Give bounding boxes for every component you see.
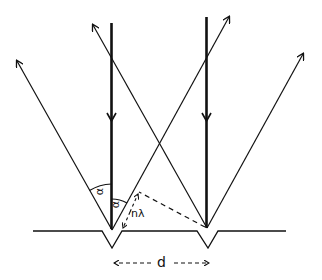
alpha-outer-label: α [94,188,105,195]
spacing-label: d [157,255,166,269]
grating-surface [33,231,286,248]
diffracted-ray-left-right [112,17,229,230]
diffracted-ray-left-outer [17,61,112,230]
diffracted-ray-right-outer [207,54,303,228]
alpha-inner-label: α [110,201,121,208]
wavefront-dashed [139,192,205,227]
path-difference-label: nλ [131,208,144,219]
diffracted-ray-right-left [93,25,207,228]
path-difference-dashed-lower [123,212,130,228]
grating-diagram [0,0,322,280]
